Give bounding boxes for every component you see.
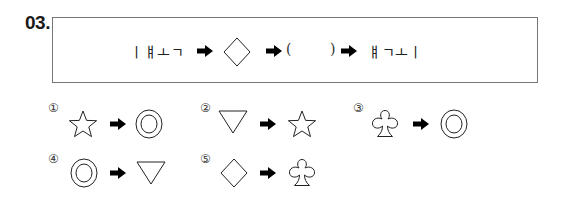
diamond-icon: [220, 158, 248, 188]
sequence-box: ㅣㅒㅗㄱ ( ) ㅒㄱㅗㅣ: [52, 17, 538, 83]
double-circle-icon: [70, 158, 98, 188]
end-text: ㅒㄱㅗㅣ: [368, 41, 422, 61]
right-arrow-icon: [266, 45, 282, 57]
choice-marker: ②: [200, 101, 211, 115]
sequence-row: ㅣㅒㅗㄱ ( ) ㅒㄱㅗㅣ: [53, 18, 537, 82]
answer-blank: [293, 38, 333, 60]
blank-open-paren: (: [286, 41, 291, 57]
right-arrow-icon: [341, 45, 357, 57]
right-arrow-icon: [197, 45, 213, 57]
star-icon: [287, 110, 317, 138]
club-icon: [371, 109, 399, 139]
right-arrow-icon: [110, 118, 126, 130]
double-circle-icon: [135, 109, 163, 139]
right-arrow-icon: [260, 118, 276, 130]
blank-close-paren: ): [330, 41, 335, 57]
choice-marker: ①: [48, 101, 59, 115]
star-icon: [68, 110, 98, 138]
right-arrow-icon: [110, 167, 126, 179]
right-arrow-icon: [413, 118, 429, 130]
question-number: 03.: [25, 12, 50, 34]
start-text: ㅣㅒㅗㄱ: [130, 41, 184, 61]
choice-marker: ⑤: [200, 152, 211, 166]
down-triangle-icon: [218, 110, 248, 134]
choice-marker: ③: [353, 101, 364, 115]
right-arrow-icon: [260, 167, 276, 179]
diamond-icon: [223, 37, 251, 67]
club-icon: [288, 158, 316, 188]
down-triangle-icon: [136, 161, 166, 185]
choice-marker: ④: [48, 152, 59, 166]
double-circle-icon: [440, 109, 468, 139]
